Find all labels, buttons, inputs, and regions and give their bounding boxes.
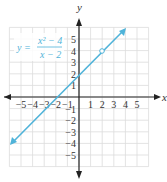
y-tick-label: −1 (65, 104, 76, 115)
y-tick-label: 4 (71, 46, 76, 57)
x-axis-right-arrow-icon (154, 94, 161, 100)
y-tick-label: −3 (65, 127, 76, 138)
y-axis-down-arrow-icon (76, 171, 82, 179)
x-axis-left-arrow-icon (4, 94, 11, 100)
x-tick-label: −3 (39, 99, 50, 110)
x-tick-label: −4 (27, 99, 38, 110)
x-tick-label: 4 (123, 99, 128, 110)
x-axis-label: x (161, 91, 167, 103)
y-tick-label: 5 (71, 34, 76, 45)
y-tick-label: −5 (65, 150, 76, 161)
graph: x y −5−4−3−2−112345 54321−1−2−3−4−5 y = … (0, 0, 167, 182)
equation-numerator: x² − 4 (37, 35, 62, 46)
x-tick-label: 2 (100, 99, 105, 110)
y-tick-label: 3 (71, 57, 76, 68)
equation-denominator: x − 2 (39, 49, 61, 60)
hole-point (100, 49, 105, 54)
y-tick-label: −2 (65, 115, 76, 126)
x-tick-label: 5 (135, 99, 140, 110)
y-axis-up-arrow-icon (76, 18, 82, 26)
equation-label: y = x² − 4 x − 2 (14, 33, 64, 61)
x-tick-label: −5 (16, 99, 27, 110)
x-tick-label: 1 (88, 99, 93, 110)
x-tick-label: −2 (50, 99, 61, 110)
x-tick-label: 3 (111, 99, 116, 110)
y-tick-label: −4 (65, 138, 76, 149)
y-axis-label: y (76, 1, 82, 13)
equation-lhs: y = (16, 42, 31, 53)
